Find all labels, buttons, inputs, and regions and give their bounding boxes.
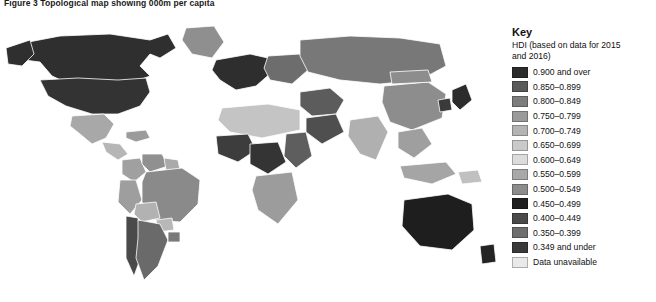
key-swatch xyxy=(512,111,528,122)
key-swatch xyxy=(512,169,528,180)
world-map xyxy=(0,14,502,302)
key-label: 0.900 and over xyxy=(533,67,590,77)
key-label: 0.550–0.599 xyxy=(533,169,581,179)
figure-container: Figure 3 Topological map showing 000m pe… xyxy=(0,0,656,302)
key-label: 0.650–0.699 xyxy=(533,140,581,150)
key-row: 0.750–0.799 xyxy=(512,109,652,124)
key-swatch xyxy=(512,154,528,165)
key-swatch xyxy=(512,257,528,268)
key-swatch xyxy=(512,184,528,195)
key-row: 0.450–0.499 xyxy=(512,196,652,211)
key-swatch xyxy=(512,198,528,209)
key-row: 0.850–0.899 xyxy=(512,80,652,95)
key-label: 0.700–0.749 xyxy=(533,126,581,136)
map-region-uruguay xyxy=(168,232,180,242)
figure-caption: Figure 3 Topological map showing 000m pe… xyxy=(4,0,215,8)
key-label: 0.600–0.649 xyxy=(533,155,581,165)
map-svg xyxy=(0,14,502,302)
key-swatch xyxy=(512,81,528,92)
key-swatch xyxy=(512,96,528,107)
key-row: 0.500–0.549 xyxy=(512,182,652,197)
key-label: Data unavailable xyxy=(533,257,597,267)
key-swatch xyxy=(512,67,528,78)
key-subtitle: HDI (based on data for 2015 and 2016) xyxy=(512,40,632,61)
map-key: Key HDI (based on data for 2015 and 2016… xyxy=(512,26,652,269)
key-label: 0.349 and under xyxy=(533,242,596,252)
key-swatch xyxy=(512,227,528,238)
key-row: Data unavailable xyxy=(512,255,652,270)
key-swatch xyxy=(512,213,528,224)
key-row: 0.350–0.399 xyxy=(512,226,652,241)
key-row: 0.650–0.699 xyxy=(512,138,652,153)
map-region-korea xyxy=(438,98,452,112)
key-label: 0.450–0.499 xyxy=(533,199,581,209)
map-region-new-zealand xyxy=(480,244,496,264)
key-swatch xyxy=(512,242,528,253)
key-swatch xyxy=(512,125,528,136)
key-label: 0.350–0.399 xyxy=(533,228,581,238)
key-row: 0.700–0.749 xyxy=(512,123,652,138)
map-region-mongolia xyxy=(390,70,432,84)
key-row: 0.600–0.649 xyxy=(512,153,652,168)
key-row: 0.800–0.849 xyxy=(512,94,652,109)
key-label: 0.850–0.899 xyxy=(533,82,581,92)
key-label: 0.400–0.449 xyxy=(533,213,581,223)
key-label: 0.800–0.849 xyxy=(533,96,581,106)
map-region-papua-new-guinea xyxy=(458,170,482,184)
key-label: 0.750–0.799 xyxy=(533,111,581,121)
key-row: 0.400–0.449 xyxy=(512,211,652,226)
key-row: 0.900 and over xyxy=(512,65,652,80)
key-entries: 0.900 and over0.850–0.8990.800–0.8490.75… xyxy=(512,65,652,269)
key-row: 0.550–0.599 xyxy=(512,167,652,182)
key-row: 0.349 and under xyxy=(512,240,652,255)
key-label: 0.500–0.549 xyxy=(533,184,581,194)
key-swatch xyxy=(512,140,528,151)
key-title: Key xyxy=(512,26,652,39)
